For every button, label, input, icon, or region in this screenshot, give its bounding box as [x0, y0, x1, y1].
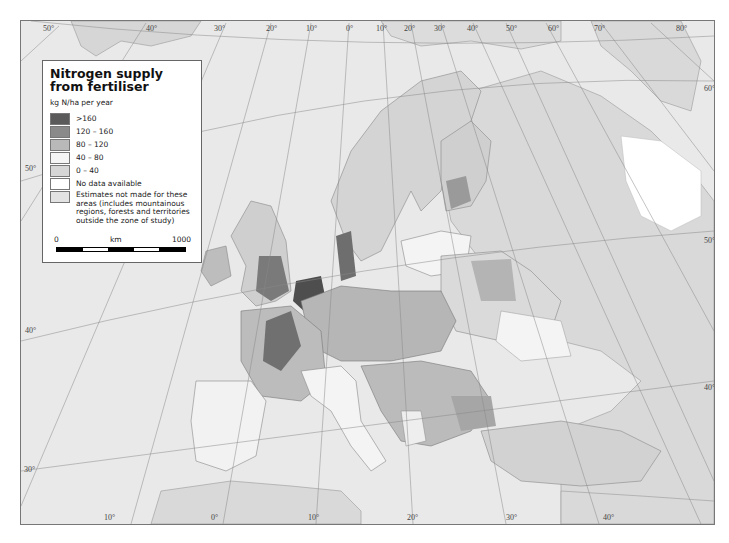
longitude-label: 0° — [346, 24, 353, 33]
legend-item: >160 — [50, 113, 194, 126]
longitude-label: 20° — [266, 24, 277, 33]
longitude-label: 10° — [308, 513, 319, 522]
latitude-label: 50° — [704, 236, 715, 245]
latitude-label: 50° — [25, 164, 36, 173]
longitude-label: 10° — [376, 24, 387, 33]
longitude-label: 40° — [603, 513, 614, 522]
longitude-label: 40° — [146, 24, 157, 33]
legend-label: 0 – 40 — [76, 165, 99, 177]
legend-swatch — [50, 165, 70, 177]
legend-swatch — [50, 113, 70, 125]
legend-swatch — [50, 152, 70, 164]
legend-unit: kg N/ha per year — [50, 98, 194, 107]
longitude-label: 20° — [404, 24, 415, 33]
legend-item: 40 – 80 — [50, 152, 194, 165]
legend-label: 80 – 120 — [76, 139, 108, 151]
legend-label: 120 – 160 — [76, 126, 113, 138]
scale-bar: 0 km 1000 — [50, 235, 194, 259]
longitude-label: 0° — [211, 513, 218, 522]
scale-unit-label: km — [110, 235, 122, 244]
legend-label: Estimates not made for these areas (incl… — [76, 191, 194, 225]
legend-swatch — [50, 139, 70, 151]
legend-swatch — [50, 126, 70, 138]
legend-swatch — [50, 178, 70, 190]
longitude-label: 40° — [467, 24, 478, 33]
longitude-label: 30° — [434, 24, 445, 33]
longitude-label: 50° — [43, 24, 54, 33]
longitude-label: 10° — [306, 24, 317, 33]
longitude-label: 30° — [506, 513, 517, 522]
legend-label: 40 – 80 — [76, 152, 104, 164]
legend-label: >160 — [76, 113, 97, 125]
legend-label: No data available — [76, 178, 142, 190]
legend-item: 80 – 120 — [50, 139, 194, 152]
legend-item: Estimates not made for these areas (incl… — [50, 191, 194, 225]
longitude-label: 10° — [104, 513, 115, 522]
latitude-label: 30° — [24, 465, 35, 474]
longitude-label: 30° — [214, 24, 225, 33]
longitude-label: 50° — [506, 24, 517, 33]
longitude-label: 60° — [548, 24, 559, 33]
longitude-label: 20° — [407, 513, 418, 522]
longitude-label: 70° — [594, 24, 605, 33]
scale-end-label: 1000 — [172, 235, 191, 244]
scale-start-label: 0 — [54, 235, 59, 244]
scale-bar-graphic — [56, 247, 186, 252]
latitude-label: 60° — [704, 84, 715, 93]
legend-item: 120 – 160 — [50, 126, 194, 139]
legend-swatch — [50, 191, 70, 203]
map-legend: Nitrogen supply from fertiliser kg N/ha … — [42, 60, 202, 263]
legend-title: Nitrogen supply from fertiliser — [50, 67, 194, 93]
latitude-label: 40° — [704, 383, 715, 392]
legend-item: 0 – 40 — [50, 165, 194, 178]
latitude-label: 40° — [25, 326, 36, 335]
longitude-label: 80° — [676, 24, 687, 33]
